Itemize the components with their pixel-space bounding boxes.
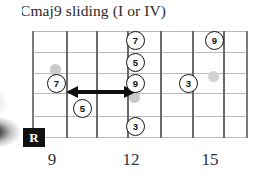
note-circle: 9 (126, 74, 145, 93)
fret-line-7 (223, 31, 225, 138)
fret-number-label: 9 (37, 150, 67, 170)
page-title: Cmaj9 sliding (I or IV) (20, 2, 166, 20)
root-marker-badge: R (23, 128, 45, 147)
title-left-clip (0, 0, 22, 26)
fret-number-label: 15 (195, 150, 225, 170)
fretboard-diagram: Cmaj9 sliding (I or IV) 7 5 7 5 9 3 3 9 (0, 0, 258, 179)
note-circle: 7 (47, 74, 66, 93)
string-line-4 (32, 93, 248, 94)
note-circle: 7 (126, 31, 145, 50)
inlay-dot-fret15 (208, 71, 219, 82)
string-line-2 (32, 52, 248, 53)
string-line-6 (32, 137, 248, 138)
note-circle: 3 (126, 117, 145, 136)
note-circle: 3 (179, 74, 198, 93)
fret-number-label: 12 (116, 150, 146, 170)
note-circle: 5 (73, 99, 92, 118)
string-line-5 (32, 116, 248, 117)
fret-line-8 (246, 31, 248, 138)
note-circle: 9 (205, 31, 224, 50)
note-circle: 5 (126, 53, 145, 72)
fret-line-5 (160, 31, 162, 138)
